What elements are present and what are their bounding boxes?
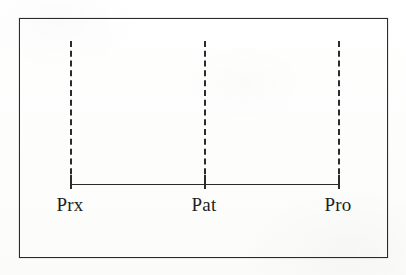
axis-tick-pro bbox=[338, 175, 340, 189]
axis-label-prx: Prx bbox=[57, 195, 84, 215]
axis-label-pro: Pro bbox=[325, 195, 352, 215]
figure-frame-border: PrxPatPro bbox=[19, 18, 388, 258]
axis-tick-prx bbox=[70, 175, 72, 189]
axis-label-pat: Pat bbox=[192, 195, 217, 215]
drop-line-pro bbox=[338, 41, 340, 184]
drop-line-prx bbox=[70, 41, 72, 184]
plot-area: PrxPatPro bbox=[20, 19, 387, 257]
drop-line-pat bbox=[204, 41, 206, 184]
figure-root: PrxPatPro bbox=[0, 0, 406, 275]
axis-tick-pat bbox=[204, 175, 206, 189]
